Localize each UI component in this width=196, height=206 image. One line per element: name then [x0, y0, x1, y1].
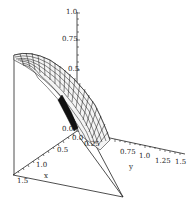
surface-mesh: [14, 53, 110, 150]
x-tick-label-05: 0.5: [57, 147, 68, 154]
axes-box: [13, 12, 185, 197]
origin-label: 0.0: [62, 126, 73, 133]
x-axis-label: x: [44, 173, 48, 180]
y-axis-label: y: [129, 164, 133, 171]
y-tick-label-10: 1.0: [139, 153, 150, 160]
y-tick-label-15: 1.5: [175, 159, 186, 166]
surface-plot: [0, 0, 196, 206]
x-tick-label-10: 1.0: [36, 162, 47, 169]
y-tick-label-075: 0.75: [120, 149, 136, 156]
x-tick-label-15: 1.5: [17, 178, 28, 185]
y-tick-label-025: 0.25: [84, 141, 100, 148]
z-tick-label-1: 1.0: [66, 9, 77, 16]
y-tick-label-125: 1.25: [155, 158, 171, 165]
z-tick-label-05: 0.5: [68, 66, 79, 73]
z-tick-label-075: 0.75: [62, 36, 78, 43]
origin-y-label: 0.0: [72, 135, 83, 142]
